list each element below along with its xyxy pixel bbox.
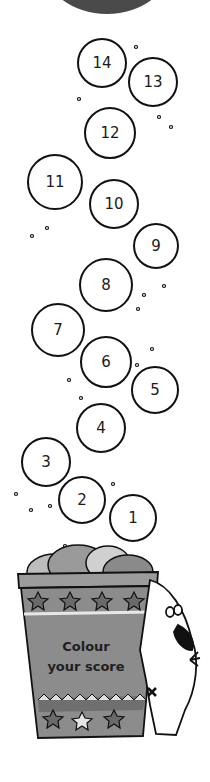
bubble-label-1[interactable]: 1 — [113, 509, 153, 527]
bubble-label-3[interactable]: 3 — [26, 453, 66, 471]
bubble-label-14[interactable]: 14 — [82, 54, 122, 72]
bucket-caption: Colour your score — [36, 637, 136, 677]
caption-line-1: Colour — [36, 637, 136, 657]
bubble-label-4[interactable]: 4 — [81, 419, 121, 437]
bubble-label-8[interactable]: 8 — [86, 276, 126, 294]
bubble-label-2[interactable]: 2 — [62, 491, 102, 509]
bubble-label-13[interactable]: 13 — [133, 73, 173, 91]
bubble-label-7[interactable]: 7 — [38, 321, 78, 339]
bubble-label-11[interactable]: 11 — [35, 173, 75, 191]
bubble-label-10[interactable]: 10 — [94, 195, 134, 213]
caption-line-2: your score — [36, 657, 136, 677]
bubble-label-9[interactable]: 9 — [136, 237, 176, 255]
dog-mascot — [140, 580, 200, 735]
bubble-label-5[interactable]: 5 — [135, 381, 175, 399]
bubble-label-12[interactable]: 12 — [90, 124, 130, 142]
bubble-label-6[interactable]: 6 — [86, 353, 126, 371]
